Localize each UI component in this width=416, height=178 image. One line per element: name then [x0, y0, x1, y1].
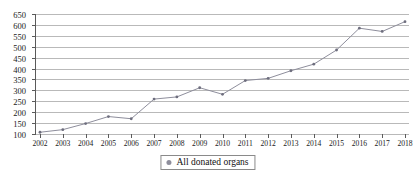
data-point-2003 [61, 128, 64, 131]
y-tick-label: 650 [13, 11, 26, 20]
y-tick-label: 200 [13, 109, 26, 118]
data-point-2007 [153, 98, 156, 101]
x-tick-label-2009: 2009 [192, 140, 207, 148]
data-point-2015 [335, 49, 338, 52]
data-point-2016 [358, 27, 361, 30]
series-line [40, 22, 405, 133]
x-tick-2012 [268, 134, 269, 138]
legend-item-label: All donated organs [176, 157, 248, 167]
data-point-2017 [381, 30, 384, 33]
x-tick-2005 [108, 134, 109, 138]
data-point-2002 [39, 131, 42, 134]
data-point-2018 [404, 20, 407, 23]
x-tick-label-2006: 2006 [124, 140, 139, 148]
x-tick-2018 [405, 134, 406, 138]
data-point-2008 [175, 96, 178, 99]
x-tick-2016 [359, 134, 360, 138]
x-tick-2017 [382, 134, 383, 138]
x-tick-2015 [337, 134, 338, 138]
x-tick-2003 [63, 134, 64, 138]
x-tick-2010 [223, 134, 224, 138]
y-tick-label: 550 [13, 33, 26, 42]
x-tick-label-2015: 2015 [329, 140, 344, 148]
data-point-2005 [107, 115, 110, 118]
x-tick-2011 [245, 134, 246, 138]
data-point-2014 [312, 63, 315, 66]
x-tick-2007 [154, 134, 155, 138]
x-tick-label-2012: 2012 [261, 140, 276, 148]
x-tick-label-2007: 2007 [146, 140, 161, 148]
data-point-2010 [221, 93, 224, 96]
x-tick-2008 [177, 134, 178, 138]
chart-legend: All donated organs [160, 155, 255, 170]
x-tick-label-2008: 2008 [169, 140, 184, 148]
y-tick-label: 600 [13, 22, 26, 31]
y-tick-label: 500 [13, 43, 26, 52]
y-tick-label: 300 [13, 87, 26, 96]
x-tick-label-2005: 2005 [101, 140, 116, 148]
y-tick-label: 100 [13, 131, 26, 140]
data-point-2013 [290, 69, 293, 72]
data-point-2012 [267, 77, 270, 80]
y-tick-100: 100 [32, 134, 36, 135]
x-tick-2009 [200, 134, 201, 138]
x-tick-2013 [291, 134, 292, 138]
x-tick-2004 [86, 134, 87, 138]
y-tick-label: 150 [13, 120, 26, 129]
y-tick-label: 400 [13, 65, 26, 74]
x-tick-2002 [40, 134, 41, 138]
x-tick-2014 [314, 134, 315, 138]
series-all-donated-organs [36, 14, 409, 134]
x-tick-label-2010: 2010 [215, 140, 230, 148]
data-point-2011 [244, 79, 247, 82]
round-dot-marker [166, 160, 171, 165]
x-tick-label-2004: 2004 [78, 140, 93, 148]
x-tick-label-2017: 2017 [375, 140, 390, 148]
x-tick-label-2014: 2014 [306, 140, 321, 148]
x-tick-label-2002: 2002 [32, 140, 47, 148]
x-tick-label-2016: 2016 [352, 140, 367, 148]
x-tick-2006 [131, 134, 132, 138]
data-point-2004 [84, 122, 87, 125]
y-tick-label: 450 [13, 54, 26, 63]
x-tick-label-2003: 2003 [55, 140, 70, 148]
y-tick-label: 250 [13, 98, 26, 107]
y-tick-label: 350 [13, 76, 26, 85]
x-tick-label-2018: 2018 [397, 140, 412, 148]
data-point-2009 [198, 86, 201, 89]
x-tick-label-2011: 2011 [238, 140, 253, 148]
data-point-2006 [130, 117, 133, 120]
plot-area: 100150200250300350400450500550600650 200… [35, 14, 409, 135]
line-chart: 100150200250300350400450500550600650 200… [0, 0, 416, 178]
x-tick-label-2013: 2013 [283, 140, 298, 148]
